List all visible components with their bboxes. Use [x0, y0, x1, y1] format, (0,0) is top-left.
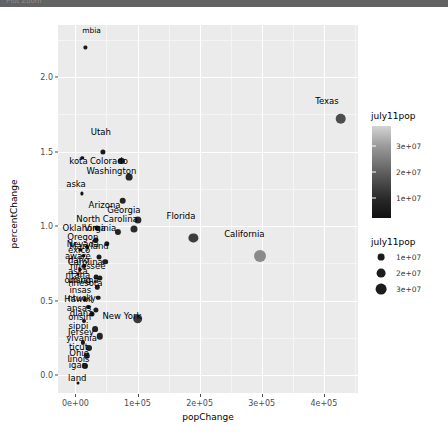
scatter-point[interactable] — [93, 307, 98, 312]
point-label: California — [224, 229, 264, 238]
scatter-point[interactable] — [254, 250, 266, 262]
x-tick-mark — [75, 394, 76, 397]
colorbar-tick-mark — [372, 172, 376, 173]
colorbar-tick-mark — [372, 146, 376, 147]
x-tick-mark — [262, 394, 263, 397]
y-tick-label: 2.0 — [40, 73, 53, 82]
y-tick-mark — [55, 77, 58, 78]
y-tick-mark — [55, 300, 58, 301]
point-label: igan — [69, 360, 87, 369]
scatter-point[interactable] — [189, 233, 198, 242]
gridline — [58, 77, 358, 78]
y-axis-title: percentChange — [9, 154, 19, 274]
x-tick-label: 2e+05 — [186, 399, 213, 408]
scatter-point[interactable] — [80, 192, 83, 195]
gridline — [58, 40, 358, 41]
gridline — [58, 301, 358, 302]
size-legend-label: 1e+07 — [396, 253, 421, 262]
point-label: Utah — [91, 128, 111, 137]
scatter-point[interactable] — [96, 295, 101, 300]
size-legend-title: july11pop — [371, 237, 415, 247]
point-label: New York — [103, 311, 142, 320]
x-axis-title: popChange — [58, 412, 358, 422]
scatter-point[interactable] — [84, 46, 87, 49]
point-label: aska — [66, 180, 86, 189]
gridline — [58, 375, 358, 376]
scatter-point[interactable] — [100, 149, 105, 154]
colorbar-tick-mark — [372, 198, 376, 199]
plot-window: Plot Zoom mbiaTexasUtahkotaColoradoWashi… — [0, 0, 448, 442]
size-legend-label: 3e+07 — [396, 285, 421, 294]
gridline — [262, 25, 263, 393]
colorbar-tick-label: 2e+07 — [396, 168, 421, 177]
window-title: Plot Zoom — [6, 0, 42, 5]
y-tick-label: 0.5 — [40, 296, 53, 305]
y-tick-label: 0.0 — [40, 371, 53, 380]
x-tick-label: 1e+05 — [124, 399, 151, 408]
y-tick-mark — [55, 226, 58, 227]
gridline — [58, 189, 358, 190]
x-tick-label: 3e+05 — [248, 399, 275, 408]
scatter-point[interactable] — [130, 226, 137, 233]
colorbar-tick-label: 1e+07 — [396, 194, 421, 203]
colorbar-legend-title: july11pop — [371, 111, 415, 121]
gridline — [200, 25, 201, 393]
scatter-point[interactable] — [335, 114, 346, 125]
point-label: Washington — [86, 167, 136, 176]
y-tick-label: 1.5 — [40, 147, 53, 156]
size-legend-dot — [376, 284, 387, 295]
x-tick-mark — [200, 394, 201, 397]
size-legend-dot — [378, 254, 385, 261]
plot-panel[interactable]: mbiaTexasUtahkotaColoradoWashingtonaskaA… — [58, 25, 358, 393]
colorbar-tick-label: 3e+07 — [396, 142, 421, 151]
x-tick-label: 0e+00 — [62, 399, 89, 408]
size-legend-dot — [377, 269, 386, 278]
window-titlebar: Plot Zoom — [0, 0, 448, 7]
y-tick-mark — [55, 151, 58, 152]
x-tick-label: 4e+05 — [310, 399, 337, 408]
point-label: land — [68, 374, 86, 383]
point-label: Colorado — [90, 156, 128, 165]
gridline — [58, 114, 358, 115]
gridline — [58, 338, 358, 339]
size-legend-label: 2e+07 — [396, 269, 421, 278]
scatter-point[interactable] — [96, 333, 102, 339]
gridline — [324, 25, 325, 393]
point-label: Texas — [315, 97, 339, 106]
x-tick-mark — [324, 394, 325, 397]
y-tick-label: 1.0 — [40, 222, 53, 231]
x-tick-mark — [138, 394, 139, 397]
point-label: mbia — [82, 27, 101, 35]
point-label: kota — [69, 156, 87, 165]
y-tick-mark — [55, 375, 58, 376]
point-label: Florida — [167, 211, 196, 220]
